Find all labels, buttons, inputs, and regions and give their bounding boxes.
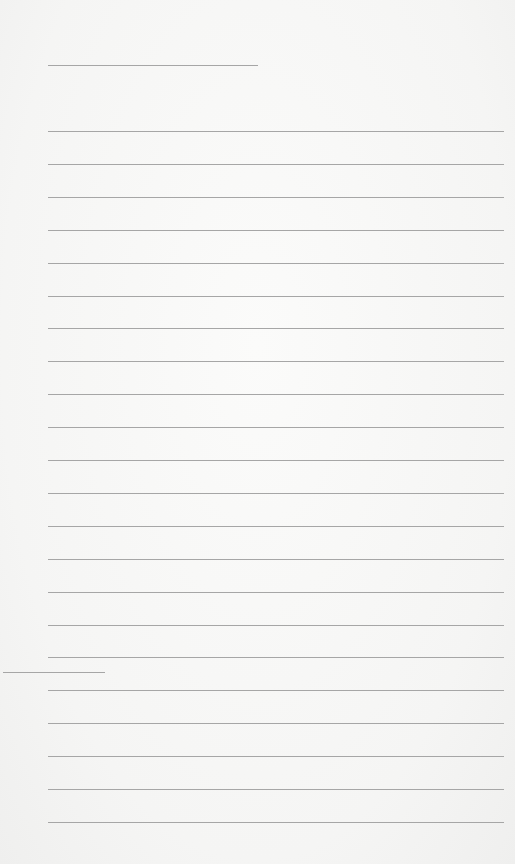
ruled-line [48,559,504,560]
ruled-line [48,296,504,297]
ruled-line [48,394,504,395]
ruled-line [48,690,504,691]
ruled-line [48,526,504,527]
ruled-line [48,723,504,724]
ruled-line [48,263,504,264]
ruled-line [48,230,504,231]
ruled-line [48,822,504,823]
lined-paper-page [0,0,515,864]
ruled-line [48,427,504,428]
ruled-line [48,493,504,494]
header-line [48,65,258,66]
ruled-line [48,131,504,132]
ruled-line [48,164,504,165]
ruled-line [48,592,504,593]
ruled-line [48,460,504,461]
ruled-line [48,789,504,790]
ruled-line [48,361,504,362]
ruled-line [48,328,504,329]
ruled-line [48,625,504,626]
margin-mark-line [3,672,105,673]
ruled-line [48,756,504,757]
ruled-line [48,197,504,198]
ruled-line [48,657,504,658]
